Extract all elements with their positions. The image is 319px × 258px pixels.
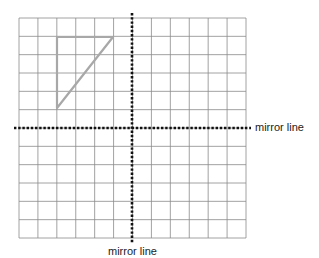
triangle-shape (57, 37, 113, 108)
horizontal-mirror-line-label: mirror line (255, 121, 304, 133)
vertical-mirror-line-label: mirror line (108, 245, 157, 257)
